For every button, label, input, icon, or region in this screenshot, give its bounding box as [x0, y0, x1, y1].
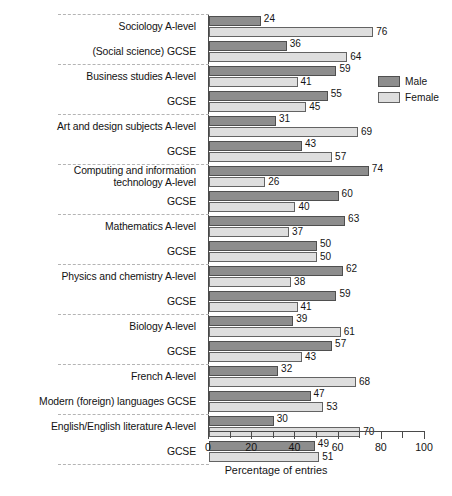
row-bars: 4951 — [209, 439, 424, 464]
row-bars: 6040 — [209, 189, 424, 214]
category-label: Business studies A-level — [0, 64, 196, 89]
bar-value-male: 63 — [348, 214, 359, 224]
row-bars: 7426 — [209, 164, 424, 189]
bar-female — [209, 52, 347, 62]
chart-row: Mathematics A-level6337 — [208, 214, 424, 239]
bar-male — [209, 91, 328, 101]
bar-male — [209, 366, 278, 376]
x-tick-major — [338, 432, 339, 439]
bar-value-male: 24 — [264, 14, 275, 24]
bar-value-male: 47 — [314, 389, 325, 399]
bar-male — [209, 66, 336, 76]
bar-value-female: 53 — [326, 402, 337, 412]
chart-row: Physics and chemistry A-level6238 — [208, 264, 424, 289]
bar-value-female: 26 — [268, 177, 279, 187]
bar-value-male: 74 — [372, 164, 383, 174]
x-tick-major — [294, 432, 295, 439]
chart-row: Sociology A-level2476 — [208, 14, 424, 39]
group-separator — [58, 364, 209, 365]
x-tick-label: 0 — [205, 441, 211, 453]
bar-value-female: 50 — [320, 252, 331, 262]
bar-female — [209, 377, 356, 387]
bar-male — [209, 116, 276, 126]
chart-row: GCSE4357 — [208, 139, 424, 164]
x-tick-minor — [316, 432, 317, 438]
bar-male — [209, 241, 317, 251]
group-separator — [58, 214, 209, 215]
bar-female — [209, 77, 298, 87]
category-label: Modern (foreign) languages GCSE — [0, 389, 196, 414]
bar-male — [209, 216, 345, 226]
category-label: Art and design subjects A-level — [0, 114, 196, 139]
bar-female — [209, 327, 341, 337]
x-tick-label: 80 — [375, 441, 387, 453]
bar-male — [209, 341, 332, 351]
x-tick-major — [381, 432, 382, 439]
category-label: French A-level — [0, 364, 196, 389]
row-bars: 3664 — [209, 39, 424, 64]
chart-row: Computing and information technology A-l… — [208, 164, 424, 189]
category-label: Mathematics A-level — [0, 214, 196, 239]
row-bars: 3961 — [209, 314, 424, 339]
bar-male — [209, 291, 336, 301]
bar-female — [209, 227, 289, 237]
group-separator — [58, 164, 209, 165]
bar-male — [209, 141, 302, 151]
chart-row: GCSE4951 — [208, 439, 424, 464]
legend-label: Male — [405, 76, 427, 87]
category-label: GCSE — [0, 339, 196, 364]
bar-value-male: 49 — [318, 439, 329, 449]
row-bars: 5941 — [209, 289, 424, 314]
category-label: Biology A-level — [0, 314, 196, 339]
bar-male — [209, 266, 343, 276]
x-tick-minor — [359, 432, 360, 438]
group-separator — [58, 414, 209, 415]
bar-value-female: 76 — [376, 27, 387, 37]
bar-value-female: 57 — [335, 152, 346, 162]
bar-value-female: 41 — [301, 302, 312, 312]
bar-male — [209, 391, 311, 401]
bar-female — [209, 252, 317, 262]
row-bars: 6337 — [209, 214, 424, 239]
row-bars: 4753 — [209, 389, 424, 414]
bar-value-female: 68 — [359, 377, 370, 387]
bar-value-female: 70 — [363, 427, 374, 437]
bar-male — [209, 191, 339, 201]
x-tick-label: 100 — [415, 441, 433, 453]
row-bars: 3268 — [209, 364, 424, 389]
bar-value-male: 36 — [290, 39, 301, 49]
bar-chart: Sociology A-level2476(Social science) GC… — [0, 0, 452, 496]
legend-item: Male — [378, 74, 439, 88]
group-separator — [58, 64, 209, 65]
chart-row: GCSE5941 — [208, 289, 424, 314]
bar-value-male: 59 — [339, 64, 350, 74]
bar-value-female: 61 — [344, 327, 355, 337]
bar-female — [209, 152, 332, 162]
x-tick-minor — [273, 432, 274, 438]
bar-female — [209, 452, 319, 462]
bar-female — [209, 102, 306, 112]
x-tick-label: 20 — [245, 441, 257, 453]
row-bars: 4357 — [209, 139, 424, 164]
legend-swatch-female — [378, 92, 400, 103]
bar-value-male: 59 — [339, 289, 350, 299]
bar-value-female: 38 — [294, 277, 305, 287]
bar-value-male: 62 — [346, 264, 357, 274]
bar-value-female: 40 — [298, 202, 309, 212]
bar-male — [209, 416, 274, 426]
bar-female — [209, 127, 358, 137]
row-bars: 6238 — [209, 264, 424, 289]
bar-value-female: 43 — [305, 352, 316, 362]
row-bars: 5050 — [209, 239, 424, 264]
category-label: (Social science) GCSE — [0, 39, 196, 64]
bar-male — [209, 41, 287, 51]
x-tick-minor — [402, 432, 403, 438]
chart-row: Biology A-level3961 — [208, 314, 424, 339]
category-label: GCSE — [0, 439, 196, 464]
bar-value-male: 55 — [331, 89, 342, 99]
bar-value-female: 45 — [309, 102, 320, 112]
x-tick-label: 60 — [332, 441, 344, 453]
category-label: GCSE — [0, 239, 196, 264]
bar-value-female: 37 — [292, 227, 303, 237]
chart-row: Modern (foreign) languages GCSE4753 — [208, 389, 424, 414]
